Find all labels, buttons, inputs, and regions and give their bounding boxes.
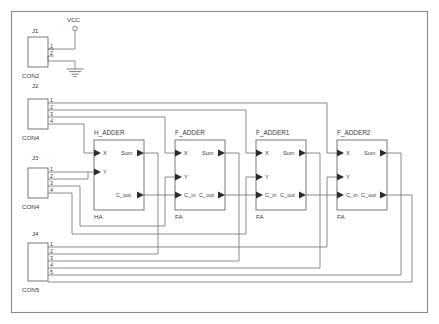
connector-j2-pin-2: 2 — [50, 104, 53, 110]
connector-j1[interactable]: J1 CON2 1 2 — [22, 27, 75, 79]
f-adder-pin-x-label: X — [184, 150, 188, 156]
h-adder-pin-cout-label: C_out — [116, 192, 131, 198]
block-h-adder-title: H_ADDER — [94, 129, 125, 137]
connector-j2-ref: J2 — [32, 82, 39, 89]
block-f-adder1-body[interactable] — [256, 140, 306, 210]
block-h-adder-body[interactable] — [94, 140, 144, 210]
connector-j1-type: CON2 — [22, 72, 40, 79]
block-f-adder2[interactable]: F_ADDER2 FA X Y C_in Sum C_out — [337, 129, 387, 220]
connector-j3-pin-3: 3 — [50, 180, 53, 186]
f-adder1-pin-x-label: X — [265, 150, 269, 156]
block-h-adder[interactable]: H_ADDER HA X Y Sum C_out — [94, 129, 144, 220]
f-adder2-pin-cin-label: C_in — [346, 192, 358, 198]
ground-symbol — [67, 61, 84, 77]
connector-j3-type: CON4 — [22, 203, 40, 210]
connector-j3-pin-1: 1 — [50, 166, 53, 172]
block-f-adder1-ref: FA — [256, 213, 264, 220]
h-adder-pin-x-label: X — [103, 150, 107, 156]
connector-j2-pin-1: 1 — [50, 97, 53, 103]
connector-j3-body[interactable] — [28, 168, 48, 198]
f-adder1-pin-y-label: Y — [265, 174, 269, 180]
connector-j1-body[interactable] — [28, 37, 48, 67]
block-f-adder-ref: FA — [175, 213, 183, 220]
f-adder2-pin-y-label: Y — [346, 174, 350, 180]
connector-j1-ref: J1 — [32, 27, 39, 34]
block-f-adder1-title: F_ADDER1 — [256, 129, 290, 137]
f-adder-pin-cout-label: C_out — [199, 192, 214, 198]
f-adder2-pin-x-label: X — [346, 150, 350, 156]
block-f-adder1[interactable]: F_ADDER1 FA X Y C_in Sum C_out — [256, 129, 306, 220]
f-adder1-pin-cout-label: C_out — [280, 192, 295, 198]
connector-j4-ref: J4 — [32, 230, 39, 237]
connector-j2-type: CON4 — [22, 134, 40, 141]
connector-j3-pin-2: 2 — [50, 173, 53, 179]
f-adder1-pin-cin-label: C_in — [265, 192, 277, 198]
connector-j4-pin-1: 1 — [50, 241, 53, 247]
block-f-adder2-title: F_ADDER2 — [337, 129, 371, 137]
block-f-adder2-ref: FA — [337, 213, 345, 220]
f-adder2-pin-cout-label: C_out — [361, 192, 376, 198]
connector-j2-body[interactable] — [28, 99, 48, 129]
block-f-adder-body[interactable] — [175, 140, 225, 210]
block-f-adder-title: F_ADDER — [175, 129, 205, 137]
f-adder-pin-cin-label: C_in — [184, 192, 196, 198]
f-adder1-pin-sum-label: Sum — [283, 150, 295, 156]
block-f-adder[interactable]: F_ADDER FA X Y C_in Sum C_out — [175, 129, 225, 220]
vcc-label: VCC — [67, 16, 81, 23]
connector-j1-pin-2: 2 — [50, 50, 53, 56]
block-f-adder2-body[interactable] — [337, 140, 387, 210]
connector-j2[interactable]: J2 CON4 1 2 3 4 — [22, 82, 53, 141]
schematic-sheet: VCC J1 CON2 1 2 J2 CON4 1 2 3 4 — [0, 0, 439, 324]
connector-j2-pin-3: 3 — [50, 111, 53, 117]
connector-j4-pin-3: 3 — [50, 255, 53, 261]
connector-j4-pin-5: 5 — [50, 269, 53, 275]
h-adder-pin-sum-label: Sum — [121, 150, 133, 156]
h-adder-pin-y-label: Y — [103, 169, 107, 175]
connector-j4-type: CON5 — [22, 286, 40, 293]
connector-j4[interactable]: J4 CON5 1 2 3 4 5 — [22, 230, 53, 293]
connector-j3[interactable]: J3 CON4 1 2 3 4 — [22, 154, 53, 210]
f-adder-pin-sum-label: Sum — [202, 150, 214, 156]
connector-j3-ref: J3 — [32, 154, 39, 161]
connector-j2-pin-4: 4 — [50, 118, 53, 124]
connector-j4-body[interactable] — [28, 243, 48, 281]
vcc-symbol: VCC — [67, 16, 81, 49]
f-adder2-pin-sum-label: Sum — [364, 150, 376, 156]
connector-j1-pin-1: 1 — [50, 43, 53, 49]
connector-j3-pin-4: 4 — [50, 187, 53, 193]
block-h-adder-ref: HA — [94, 213, 103, 220]
connector-j4-pin-2: 2 — [50, 248, 53, 254]
connector-j4-pin-4: 4 — [50, 262, 53, 268]
f-adder-pin-y-label: Y — [184, 174, 188, 180]
